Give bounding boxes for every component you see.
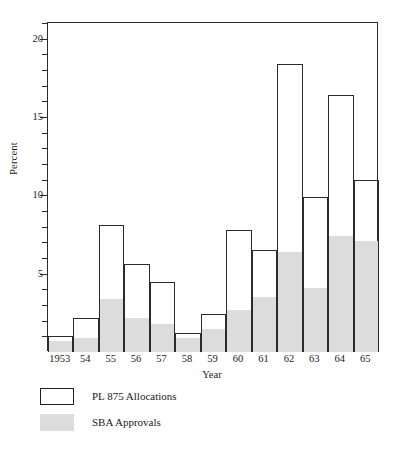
x-axis-tick-label: 65 xyxy=(360,354,371,365)
bar-pl875-allocations xyxy=(99,225,124,352)
bar-pl875-allocations xyxy=(48,336,73,352)
x-axis-tick-label: 59 xyxy=(207,354,218,365)
bar-pl875-allocations xyxy=(73,318,98,352)
y-axis-minor-tick xyxy=(42,305,48,306)
y-axis-minor-tick xyxy=(42,148,48,149)
bar-pl875-allocations xyxy=(252,250,277,352)
y-axis-minor-tick xyxy=(42,86,48,87)
plot-area: 5101520 xyxy=(47,22,378,351)
bar-pl875-allocations xyxy=(303,197,328,352)
outline-bar-swatch-icon xyxy=(40,388,74,405)
y-axis-tick-label: 5 xyxy=(38,268,43,279)
filled-bar-swatch-icon xyxy=(40,414,74,431)
y-axis-minor-tick xyxy=(42,54,48,55)
y-axis-title: Percent xyxy=(8,142,19,175)
y-axis-minor-tick xyxy=(42,227,48,228)
y-axis-minor-tick xyxy=(42,133,48,134)
x-axis-tick-label: 62 xyxy=(284,354,295,365)
y-axis-minor-tick xyxy=(42,289,48,290)
bar-pl875-allocations xyxy=(328,95,353,352)
x-axis-tick-label: 56 xyxy=(131,354,142,365)
y-axis-tick-label: 10 xyxy=(33,190,44,201)
chart-figure: Percent 5101520 195354555657585960616263… xyxy=(0,0,400,449)
x-axis-tick-label: 58 xyxy=(182,354,193,365)
x-axis-tick-label: 64 xyxy=(335,354,346,365)
y-axis-minor-tick xyxy=(42,258,48,259)
y-axis-tick-label: 15 xyxy=(33,112,44,123)
y-axis-minor-tick xyxy=(42,211,48,212)
legend-label-pl875: PL 875 Allocations xyxy=(92,390,177,402)
bar-pl875-allocations xyxy=(201,314,226,352)
x-axis-tick-label: 63 xyxy=(309,354,320,365)
x-axis-tick-label: 54 xyxy=(80,354,91,365)
x-axis-title: Year xyxy=(202,369,221,380)
y-axis-minor-tick xyxy=(42,180,48,181)
bar-pl875-allocations xyxy=(175,333,200,352)
bar-pl875-allocations xyxy=(354,180,379,352)
y-axis-minor-tick xyxy=(42,242,48,243)
bar-pl875-allocations xyxy=(226,230,251,352)
chart-legend: PL 875 Allocations SBA Approvals xyxy=(40,383,300,435)
y-axis-minor-tick xyxy=(42,23,48,24)
bar-pl875-allocations xyxy=(124,264,149,352)
y-axis-minor-tick xyxy=(42,164,48,165)
bar-pl875-allocations xyxy=(277,64,302,352)
legend-label-sba: SBA Approvals xyxy=(92,416,161,428)
bar-pl875-allocations xyxy=(150,282,175,353)
legend-item-pl875: PL 875 Allocations xyxy=(40,383,300,409)
y-axis-tick-label: 20 xyxy=(33,33,44,44)
y-axis-minor-tick xyxy=(42,321,48,322)
x-axis-tick-label: 61 xyxy=(258,354,269,365)
y-axis-minor-tick xyxy=(42,70,48,71)
y-axis-minor-tick xyxy=(42,101,48,102)
x-axis-tick-label: 57 xyxy=(156,354,167,365)
x-axis-tick-label: 60 xyxy=(233,354,244,365)
x-axis-tick-label: 1953 xyxy=(49,354,70,365)
x-axis-tick-label: 55 xyxy=(105,354,116,365)
legend-item-sba: SBA Approvals xyxy=(40,409,300,435)
